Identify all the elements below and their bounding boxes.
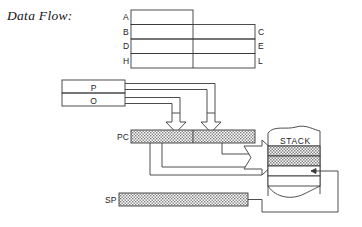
register-label-h: H [123, 57, 129, 66]
page-title: Data Flow: [7, 8, 73, 24]
register-label-a: A [123, 13, 129, 22]
stack-label: STACK [280, 136, 311, 146]
register-row-a [131, 10, 193, 25]
register-label-b: B [123, 28, 129, 37]
diagram-vector-layer [0, 0, 362, 227]
diagram-canvas: Data Flow: A B D H C E L P O PC SP STACK [0, 0, 362, 227]
register-row-bc [131, 25, 255, 40]
register-row-hl [131, 54, 255, 69]
po-register-row-o: O [62, 96, 125, 106]
register-label-l: L [258, 57, 263, 66]
register-label-c: C [258, 28, 264, 37]
po-register-row-p: P [62, 83, 125, 93]
register-row-de [131, 39, 255, 54]
register-label-d: D [123, 42, 129, 51]
program-counter-label: PC [117, 133, 129, 142]
stack-pointer-label: SP [105, 196, 116, 205]
stack-pointer-bar [119, 193, 248, 206]
program-counter-bar [131, 130, 255, 143]
register-label-e: E [258, 42, 264, 51]
po-routing-lines [125, 84, 215, 114]
